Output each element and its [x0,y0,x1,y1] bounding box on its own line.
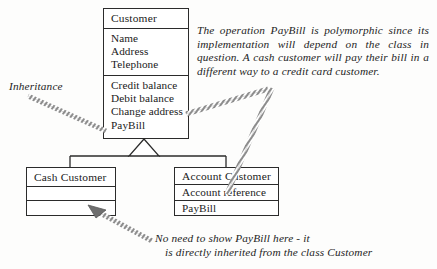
annotation-inherited: No need to show PayBill here - it is dir… [155,232,425,259]
leader-line-polymorphic-to-customer-paybill [186,89,268,114]
class-box-customer[interactable]: Customer Name Address Telephone Credit b… [103,8,189,139]
attributes-compartment-cash-customer [27,187,115,201]
attributes-compartment-customer: Name Address Telephone [104,29,188,76]
operations-compartment-customer: Credit balance Debit balance Change addr… [104,76,188,138]
operation-item: Debit balance [111,92,182,105]
class-name-cash-customer: Cash Customer [34,170,109,185]
annotation-inherited-line-2: is directly inherited from the class Cus… [155,246,425,260]
attributes-compartment-account-customer: Account reference [175,185,278,201]
label-inheritance: Inheritance [9,80,63,94]
attribute-item: Address [111,45,182,58]
class-name-account-customer: Account Customer [182,169,272,184]
operation-item: Change address [111,105,182,118]
operation-item-paybill: PayBill [182,202,272,215]
uml-class-diagram-canvas: Customer Name Address Telephone Credit b… [0,0,437,269]
attribute-item: Telephone [111,58,182,71]
attribute-item: Name [111,32,182,45]
class-name-compartment-customer: Customer [104,9,188,29]
generalization-connector [70,139,226,167]
operations-compartment-cash-customer [27,201,115,215]
class-name-compartment-cash-customer: Cash Customer [27,168,115,187]
operation-item-paybill: PayBill [111,119,182,132]
attribute-item: Account reference [182,186,272,199]
operations-compartment-account-customer: PayBill [175,201,278,215]
annotation-polymorphic: The operation PayBill is polymorphic sin… [197,24,429,78]
annotation-inherited-line-1: No need to show PayBill here - it [155,232,425,246]
class-box-cash-customer[interactable]: Cash Customer [26,167,116,216]
operation-item: Credit balance [111,79,182,92]
class-box-account-customer[interactable]: Account Customer Account reference PayBi… [174,167,279,216]
leader-line-inheritance [28,96,106,131]
class-name-compartment-account-customer: Account Customer [175,168,278,185]
generalization-triangle [129,139,159,156]
class-name-customer: Customer [111,11,182,26]
